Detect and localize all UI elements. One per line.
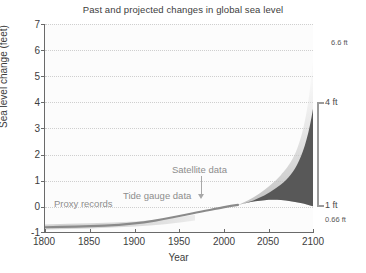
y-tick-mark-0 — [41, 207, 45, 208]
chart-title: Past and projected changes in global sea… — [0, 4, 366, 15]
endpoint-label-1ft: 1 ft — [325, 200, 338, 210]
y-tick-mark-5 — [41, 76, 45, 77]
x-tick-label-1800: 1800 — [24, 236, 64, 247]
endpoint-label-0-66ft: 0.66 ft — [325, 215, 346, 224]
range-bracket-line — [317, 102, 319, 207]
x-tick-label-2050: 2050 — [248, 236, 288, 247]
x-axis-label: Year — [44, 252, 313, 263]
x-tick-mark-2050 — [269, 229, 270, 233]
x-tick-mark-1950 — [179, 229, 180, 233]
y-tick-label-6: 6 — [22, 45, 40, 56]
x-tick-mark-1900 — [135, 229, 136, 233]
y-tick-mark-1 — [41, 181, 45, 182]
sea-level-chart-figure: Past and projected changes in global sea… — [0, 0, 366, 273]
satellite-arrow-stem — [201, 176, 202, 195]
y-tick-mark-6 — [41, 50, 45, 51]
x-tick-label-1950: 1950 — [159, 236, 199, 247]
x-tick-label-2100: 2100 — [293, 236, 333, 247]
x-tick-mark-2100 — [313, 229, 314, 233]
y-tick-mark-7 — [41, 24, 45, 25]
x-tick-label-1850: 1850 — [69, 236, 109, 247]
endpoint-label-4ft: 4 ft — [325, 97, 338, 107]
y-tick-mark-4 — [41, 102, 45, 103]
y-tick-label-4: 4 — [22, 97, 40, 108]
endpoint-label-6-6ft: 6.6 ft — [331, 38, 348, 47]
y-tick-label-2: 2 — [22, 149, 40, 160]
x-tick-mark-1850 — [90, 229, 91, 233]
annotation-proxy-records: Proxy records — [54, 198, 113, 209]
x-tick-mark-1800 — [45, 229, 46, 233]
y-axis-label: Sea level change (feet) — [0, 25, 9, 128]
y-tick-mark-2 — [41, 155, 45, 156]
x-tick-label-1900: 1900 — [114, 236, 154, 247]
x-tick-mark-2000 — [224, 229, 225, 233]
y-tick-label-0: 0 — [22, 201, 40, 212]
satellite-arrow-head-icon — [198, 194, 204, 199]
range-bracket-cap-top — [317, 102, 324, 104]
y-tick-label-1: 1 — [22, 175, 40, 186]
y-tick-label-7: 7 — [22, 19, 40, 30]
x-tick-label-2000: 2000 — [204, 236, 244, 247]
annotation-satellite-data: Satellite data — [172, 164, 227, 175]
annotation-tide-gauge-data: Tide gauge data — [123, 190, 191, 201]
y-tick-label-5: 5 — [22, 71, 40, 82]
y-tick-mark-3 — [41, 128, 45, 129]
y-tick-label-3: 3 — [22, 123, 40, 134]
range-bracket-cap-bottom — [317, 205, 324, 207]
plot-area: Proxy records Tide gauge data Satellite … — [44, 24, 313, 233]
